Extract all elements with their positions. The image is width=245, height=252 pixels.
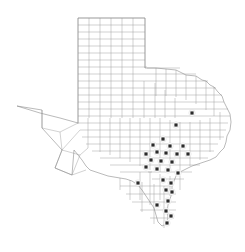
occurrence-marker: [169, 189, 175, 195]
marker-dot: [155, 167, 158, 170]
texas-county-map: [0, 0, 245, 252]
marker-dot: [144, 165, 147, 168]
occurrence-marker: [168, 180, 174, 186]
marker-dot: [155, 203, 158, 206]
occurrence-marker: [143, 164, 149, 170]
marker-dot: [176, 171, 179, 174]
marker-dot: [165, 221, 168, 224]
occurrence-marker: [135, 180, 141, 186]
occurrence-marker: [163, 150, 169, 156]
marker-dot: [151, 143, 154, 146]
marker-dot: [190, 111, 193, 114]
occurrence-marker: [143, 151, 149, 157]
occurrence-marker: [168, 213, 174, 219]
marker-dot: [155, 150, 158, 153]
occurrence-marker: [173, 122, 179, 128]
occurrence-marker: [154, 149, 160, 155]
marker-dot: [166, 199, 169, 202]
marker-dot: [170, 190, 173, 193]
occurrence-marker: [165, 198, 171, 204]
occurrence-marker: [154, 202, 160, 208]
occurrence-marker: [167, 143, 173, 149]
occurrence-marker: [160, 177, 166, 183]
marker-dot: [169, 181, 172, 184]
marker-dot: [136, 181, 139, 184]
occurrence-marker: [180, 143, 186, 149]
occurrence-marker: [160, 136, 166, 142]
marker-dot: [164, 188, 167, 191]
occurrence-marker: [154, 166, 160, 172]
marker-dot: [174, 123, 177, 126]
marker-dot: [161, 137, 164, 140]
occurrence-marker: [164, 220, 170, 226]
occurrence-marker: [185, 151, 191, 157]
county-boundaries: [42, 18, 230, 228]
occurrence-marker: [174, 151, 180, 157]
occurrence-dot-layer: [135, 110, 195, 226]
occurrence-marker: [189, 110, 195, 116]
occurrence-marker: [158, 158, 164, 164]
marker-dot: [168, 144, 171, 147]
marker-dot: [186, 152, 189, 155]
occurrence-marker: [163, 208, 169, 214]
marker-dot: [149, 158, 152, 161]
distribution-map-figure: [0, 0, 245, 252]
occurrence-marker: [165, 167, 171, 173]
marker-dot: [164, 209, 167, 212]
marker-dot: [166, 168, 169, 171]
marker-dot: [169, 214, 172, 217]
marker-dot: [175, 152, 178, 155]
occurrence-marker: [169, 159, 175, 165]
marker-dot: [181, 144, 184, 147]
marker-dot: [164, 151, 167, 154]
marker-dot: [161, 178, 164, 181]
occurrence-marker: [163, 187, 169, 193]
texas-state-outline: [17, 18, 231, 226]
marker-dot: [159, 159, 162, 162]
occurrence-marker: [148, 157, 154, 163]
marker-dot: [170, 160, 173, 163]
occurrence-marker: [175, 170, 181, 176]
occurrence-marker: [150, 142, 156, 148]
marker-dot: [144, 152, 147, 155]
